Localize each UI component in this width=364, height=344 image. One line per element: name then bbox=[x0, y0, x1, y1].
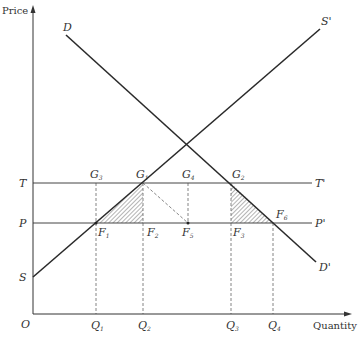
point-f2-label: F2 bbox=[146, 226, 159, 239]
point-f3-label: F3 bbox=[232, 226, 245, 239]
supply-start-label: S bbox=[19, 271, 27, 284]
supply-curve bbox=[33, 29, 320, 277]
point-f5-label: F5 bbox=[181, 226, 194, 239]
demand-end-label: D' bbox=[318, 261, 331, 274]
x-axis-label: Quantity bbox=[313, 320, 357, 331]
y-axis-arrow-icon bbox=[31, 5, 36, 13]
x-axis-arrow-icon bbox=[344, 312, 352, 317]
world-left-label: P bbox=[18, 217, 27, 230]
q4-label: Q4 bbox=[268, 319, 281, 332]
g1-f5-diagonal bbox=[143, 183, 188, 223]
point-f1-label: F1 bbox=[97, 226, 109, 239]
y-axis-label: Price bbox=[2, 5, 28, 16]
point-f5-dot bbox=[187, 222, 190, 225]
point-f1-dot bbox=[95, 222, 98, 225]
supply-end-label: S' bbox=[321, 15, 332, 28]
origin-label: O bbox=[21, 318, 30, 331]
tariff-left-label: T bbox=[19, 177, 28, 190]
demand-start-label: D bbox=[62, 21, 72, 34]
world-right-label: P' bbox=[314, 217, 325, 230]
q1-label: Q1 bbox=[91, 319, 104, 332]
diagram-canvas: Price Quantity O D D' S S' T T' P P' G3 … bbox=[0, 0, 364, 344]
point-g4-label: G4 bbox=[182, 168, 195, 181]
point-g3-label: G3 bbox=[90, 168, 103, 181]
tariff-right-label: T' bbox=[315, 177, 325, 190]
point-f6-label: F6 bbox=[275, 208, 288, 221]
point-g1-label: G1 bbox=[136, 168, 149, 181]
tariff-diagram: Price Quantity O D D' S S' T T' P P' G3 … bbox=[0, 0, 364, 344]
q2-label: Q2 bbox=[138, 319, 151, 332]
q3-label: Q3 bbox=[226, 319, 239, 332]
point-g2-label: G2 bbox=[232, 168, 245, 181]
